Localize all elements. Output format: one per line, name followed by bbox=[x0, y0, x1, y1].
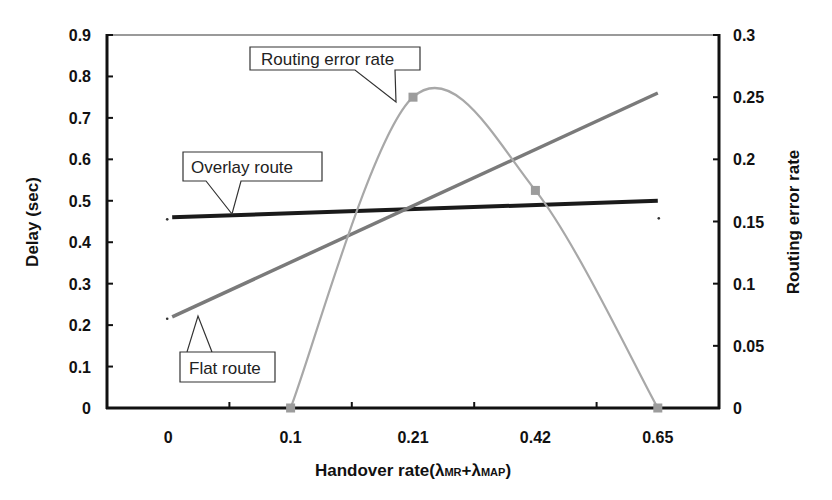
y2-tick-label: 0.05 bbox=[733, 338, 764, 355]
data-marker bbox=[531, 186, 540, 195]
callout-flat-route: Flat route bbox=[180, 316, 275, 382]
callout-overlay-route: Overlay route bbox=[183, 152, 322, 214]
x-tick-label: 0.65 bbox=[642, 429, 673, 446]
y-tick-label: 0.8 bbox=[69, 68, 91, 85]
y-tick-label: 0.6 bbox=[69, 151, 91, 168]
y2-tick-label: 0.1 bbox=[733, 276, 755, 293]
x-tick-label: 0 bbox=[164, 429, 173, 446]
callout-label-overlay: Overlay route bbox=[191, 158, 293, 177]
y-tick-label: 0.9 bbox=[69, 27, 91, 44]
x-tick-label: 0.21 bbox=[397, 429, 428, 446]
y-tick-label: 0.7 bbox=[69, 110, 91, 127]
x-axis-title: Handover rate(λMR+λMAP) bbox=[315, 461, 511, 480]
y-tick-label: 0.3 bbox=[69, 276, 91, 293]
data-marker bbox=[653, 404, 662, 413]
chart: 00.10.20.30.40.50.60.70.80.9 00.050.10.1… bbox=[0, 0, 832, 500]
callout-label-routing-error: Routing error rate bbox=[261, 50, 394, 69]
x-tick-label: 0.42 bbox=[520, 429, 551, 446]
y-tick-label: 0 bbox=[82, 400, 91, 417]
y2-tick-label: 0 bbox=[733, 400, 742, 417]
series-routing-error-rate bbox=[291, 88, 658, 408]
y-axis-title: Delay (sec) bbox=[23, 177, 42, 267]
y2-tick-label: 0.3 bbox=[733, 27, 755, 44]
data-marker bbox=[286, 404, 295, 413]
x-tick-label: 0.1 bbox=[279, 429, 301, 446]
callout-label-flat: Flat route bbox=[189, 359, 261, 378]
y-tick-label: 0.4 bbox=[69, 234, 91, 251]
y-tick-label: 0.1 bbox=[69, 359, 91, 376]
y2-axis-title: Routing error rate bbox=[784, 150, 803, 295]
y-tick-label: 0.5 bbox=[69, 193, 91, 210]
y-tick-label: 0.2 bbox=[69, 317, 91, 334]
y2-tick-label: 0.25 bbox=[733, 89, 764, 106]
y2-tick-label: 0.2 bbox=[733, 151, 755, 168]
data-marker bbox=[409, 93, 418, 102]
y2-tick-label: 0.15 bbox=[733, 214, 764, 231]
callout-routing-error-rate: Routing error rate bbox=[250, 47, 420, 102]
right-y-ticks: 00.050.10.150.20.250.3 bbox=[713, 27, 764, 417]
